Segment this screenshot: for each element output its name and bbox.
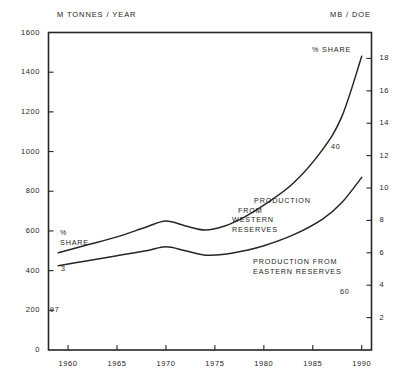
- annotation-western-line2: FROM: [232, 206, 311, 216]
- left-tick-label: 800: [6, 186, 40, 195]
- x-tick-label: 1965: [97, 359, 137, 368]
- right-tick-label: 12: [380, 151, 409, 160]
- annotation-share-top: % SHARE: [312, 45, 351, 55]
- x-tick-label: 1960: [48, 359, 88, 368]
- left-tick-label: 600: [6, 226, 40, 235]
- right-tick-label: 10: [380, 183, 409, 192]
- left-tick-label: 400: [6, 266, 40, 275]
- annotation-share-left: % SHARE: [60, 228, 89, 247]
- right-tick-label: 8: [380, 215, 409, 224]
- left-tick-label: 1600: [6, 28, 40, 37]
- plot-area: [0, 0, 409, 386]
- left-tick-label: 1400: [6, 67, 40, 76]
- annotation-eastern-reserves: PRODUCTION FROM EASTERN RESERVES: [253, 257, 342, 276]
- left-tick-label: 0: [6, 345, 40, 354]
- axis-frame: [49, 33, 372, 351]
- annotation-value-40: 40: [331, 142, 341, 152]
- data-curves: [58, 56, 361, 265]
- annotation-western-line1: PRODUCTION: [232, 196, 311, 206]
- left-tick-label: 1000: [6, 147, 40, 156]
- annotation-western-line4: RESERVES: [232, 225, 311, 235]
- x-tick-label: 1975: [195, 359, 235, 368]
- right-tick-label: 16: [380, 86, 409, 95]
- annotation-value-60: 60: [340, 287, 350, 297]
- x-tick-label: 1970: [146, 359, 186, 368]
- left-tick-label: 200: [6, 305, 40, 314]
- right-tick-label: 4: [380, 280, 409, 289]
- annotation-share-left-line1: %: [60, 228, 89, 238]
- right-tick-label: 6: [380, 248, 409, 257]
- right-tick-label: 2: [380, 313, 409, 322]
- annotation-value-97: 97: [50, 305, 60, 315]
- annotation-value-3: 3: [61, 264, 66, 274]
- x-tick-label: 1990: [342, 359, 382, 368]
- right-tick-label: 18: [380, 53, 409, 62]
- right-axis-unit-label: MB / DOE: [330, 10, 371, 19]
- curve-series-1: [58, 177, 361, 265]
- annotation-share-left-line2: SHARE: [60, 238, 89, 248]
- chart-figure: M TONNES / YEAR MB / DOE 020040060080010…: [0, 0, 409, 386]
- left-axis-unit-label: M TONNES / YEAR: [57, 10, 136, 19]
- x-tick-label: 1985: [293, 359, 333, 368]
- annotation-eastern-line2: EASTERN RESERVES: [253, 267, 342, 277]
- annotation-western-reserves: PRODUCTION FROM WESTERN RESERVES: [232, 196, 311, 234]
- annotation-eastern-line1: PRODUCTION FROM: [253, 257, 342, 267]
- left-tick-label: 1200: [6, 107, 40, 116]
- annotation-western-line3: WESTERN: [232, 215, 311, 225]
- right-tick-label: 14: [380, 118, 409, 127]
- x-tick-label: 1980: [244, 359, 284, 368]
